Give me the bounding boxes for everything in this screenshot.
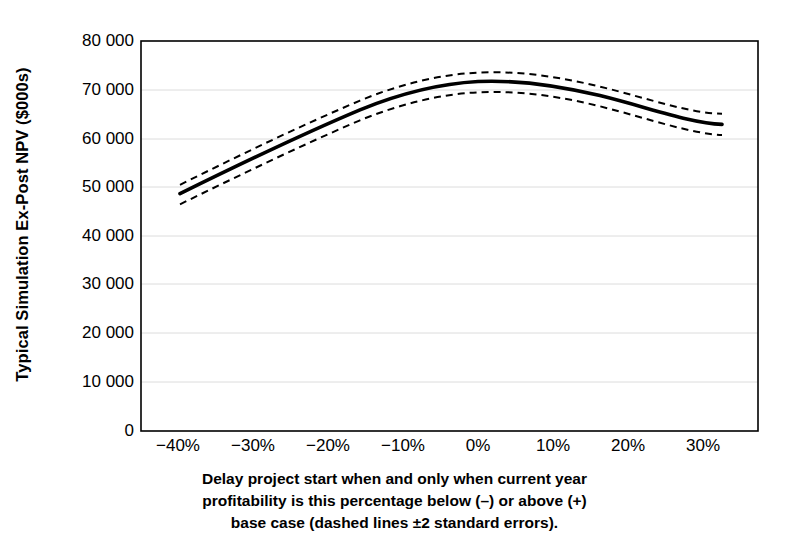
caption-line: Delay project start when and only when c… — [0, 468, 789, 490]
plot-area — [0, 0, 789, 460]
chart-figure: Typical Simulation Ex-Post NPV ($000s) 0… — [0, 0, 789, 558]
x-tick-label: 10% — [536, 436, 570, 456]
x-tick-label: −30% — [231, 436, 275, 456]
x-tick-label: 20% — [611, 436, 645, 456]
upper-confidence-band — [180, 72, 722, 185]
x-tick-label: 30% — [686, 436, 720, 456]
x-tick-label: 0% — [466, 436, 491, 456]
x-tick-label: −20% — [306, 436, 350, 456]
caption-line: base case (dashed lines ±2 standard erro… — [0, 512, 789, 534]
gridlines — [141, 90, 758, 382]
caption-line: profitability is this percentage below (… — [0, 490, 789, 512]
x-tick-label: −40% — [156, 436, 200, 456]
x-tick-label: −10% — [381, 436, 425, 456]
x-axis-caption: Delay project start when and only when c… — [0, 468, 789, 534]
